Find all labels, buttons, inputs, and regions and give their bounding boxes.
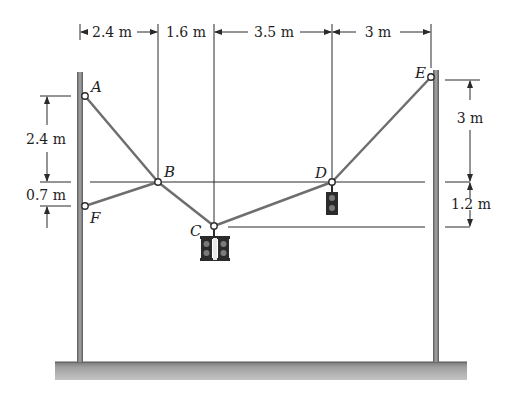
dimension-extension-lines <box>40 24 480 227</box>
joint-B <box>155 179 161 185</box>
dim-label-3-5m: 3.5 m <box>254 24 294 40</box>
point-label-a: A <box>89 78 102 96</box>
cables <box>85 77 431 226</box>
cable-CD <box>214 182 332 226</box>
joints <box>82 74 434 229</box>
joint-F <box>82 203 88 209</box>
dim-label-0-7m: 0.7 m <box>26 187 66 203</box>
cable-DE <box>332 77 431 182</box>
dim-label-3m-top: 3 m <box>365 24 392 40</box>
joint-D <box>329 179 335 185</box>
joint-C <box>211 223 217 229</box>
cable-FB <box>85 182 158 206</box>
dim-label-3m-right: 3 m <box>457 110 484 126</box>
dim-label-2-4m-left: 2.4 m <box>26 131 66 147</box>
dim-label-2-4m-top: 2.4 m <box>92 24 132 40</box>
left-pole <box>77 72 83 362</box>
point-label-f: F <box>89 209 101 227</box>
point-label-d: D <box>314 164 327 182</box>
ground <box>55 362 467 380</box>
dim-label-1-2m: 1.2 m <box>451 196 491 212</box>
joint-E <box>428 74 434 80</box>
traffic-signal-c-icon <box>200 229 230 261</box>
right-pole <box>433 70 439 362</box>
cable-AB <box>85 96 158 182</box>
cable-diagram: 2.4 m 1.6 m 3.5 m 3 m 2.4 m 0.7 m 3 m 1.… <box>0 0 507 393</box>
point-label-b: B <box>163 163 175 181</box>
dim-label-1-6m: 1.6 m <box>166 24 206 40</box>
point-label-c: C <box>190 222 202 240</box>
cable-BC <box>158 182 214 226</box>
traffic-signal-d-icon <box>326 185 338 215</box>
point-label-e: E <box>414 64 426 82</box>
joint-A <box>82 93 88 99</box>
